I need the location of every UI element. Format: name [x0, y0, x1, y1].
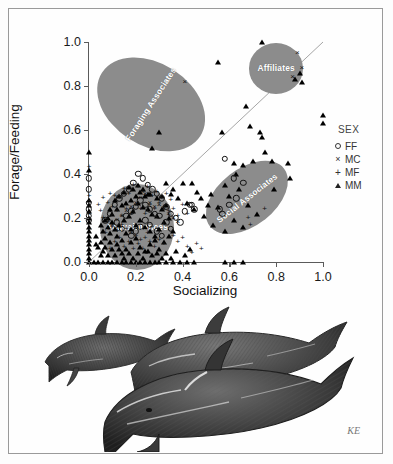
y-tick-label: 0.8: [64, 79, 81, 93]
legend-item-ff[interactable]: FF: [331, 140, 387, 152]
y-tick-mark: [84, 86, 89, 87]
x-tick-mark: [183, 262, 184, 267]
legend-entries: FF×MC+MFMM: [331, 140, 387, 191]
y-tick-mark: [84, 218, 89, 219]
x-tick-mark: [323, 262, 324, 267]
x-axis-label: Socializing: [173, 283, 238, 298]
y-axis-label: Forage/Feeding: [7, 104, 22, 199]
x-tick-label: 0.6: [221, 270, 238, 284]
cluster-label: Foraging Associates: [123, 66, 178, 143]
y-tick-mark: [84, 130, 89, 131]
cluster-label: Acquaintances: [106, 222, 168, 232]
x-tick-label: 0.4: [174, 270, 191, 284]
cross-x-icon: ×: [331, 154, 345, 164]
x-tick-label: 1.0: [314, 270, 331, 284]
legend-title: SEX: [338, 124, 387, 135]
cluster-blob: Acquaintances: [100, 184, 175, 270]
artist-signature: KE: [347, 425, 360, 436]
legend-label: MM: [345, 180, 362, 191]
cluster-label: Affiliates: [258, 63, 295, 73]
legend: SEX FF×MC+MFMM: [331, 124, 387, 192]
y-tick-mark: [84, 174, 89, 175]
x-tick-mark: [136, 262, 137, 267]
legend-item-mf[interactable]: +MF: [331, 166, 387, 178]
legend-item-mc[interactable]: ×MC: [331, 153, 387, 165]
dolphin-illustration: KE: [9, 300, 382, 452]
x-tick-label: 0.0: [80, 270, 97, 284]
y-tick-label: 0.0: [64, 255, 81, 269]
y-tick-label: 0.2: [64, 211, 81, 225]
filled-triangle-icon: [331, 183, 345, 188]
x-tick-mark: [276, 262, 277, 267]
y-tick-label: 1.0: [64, 35, 81, 49]
x-tick-mark: [89, 262, 90, 267]
legend-label: FF: [345, 141, 357, 152]
plus-icon: +: [331, 167, 345, 178]
x-tick-label: 0.2: [127, 270, 144, 284]
y-tick-label: 0.4: [64, 167, 81, 181]
plot-axes: Foraging AssociatesAffiliatesAcquaintanc…: [88, 42, 323, 263]
legend-label: MF: [345, 167, 359, 178]
cluster-blob: Affiliates: [249, 43, 303, 94]
x-tick-mark: [229, 262, 230, 267]
x-tick-label: 0.8: [267, 270, 284, 284]
legend-label: MC: [345, 154, 361, 165]
figure-container: Forage/Feeding Socializing Foraging Asso…: [0, 0, 393, 464]
dolphin-drawing: [9, 300, 382, 452]
y-tick-label: 0.6: [64, 123, 81, 137]
y-tick-mark: [84, 42, 89, 43]
circle-icon: [331, 143, 345, 150]
legend-item-mm[interactable]: MM: [331, 179, 387, 191]
